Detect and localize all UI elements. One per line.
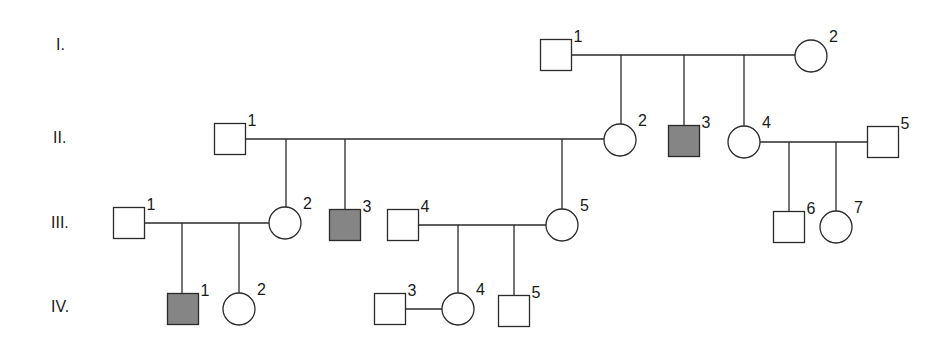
male-square-icon [114,208,145,239]
individual-number: 2 [257,281,266,298]
individual-iv-4: 4 [442,281,485,325]
individual-number: 2 [829,28,838,45]
individual-number: 4 [762,114,771,131]
individual-ii-3: 3 [669,114,711,157]
individual-iii-7: 7 [820,199,863,243]
female-circle-icon [604,124,636,156]
individual-number: 3 [408,282,417,299]
individuals: 1212345123456712345 [114,28,910,327]
male-square-icon [215,124,246,155]
female-circle-icon [546,209,578,241]
individual-iv-5: 5 [499,284,541,327]
relationship-lines [145,55,868,309]
male-square-icon [499,296,530,327]
individual-number: 5 [580,197,589,214]
female-circle-icon [223,293,255,325]
individual-number: 1 [248,112,257,129]
affected-male-square-icon [330,210,361,241]
generation-label-ii: II. [53,129,66,146]
generation-label-i: I. [56,36,65,53]
male-square-icon [388,210,419,241]
individual-number: 3 [363,198,372,215]
individual-number: 2 [303,195,312,212]
individual-i-2: 2 [795,28,838,72]
individual-ii-2: 2 [604,112,647,156]
individual-iii-2: 2 [269,195,312,239]
individual-i-1: 1 [541,28,583,71]
individual-iii-5: 5 [546,197,589,241]
individual-iii-3: 3 [330,198,372,241]
individual-iii-4: 4 [388,198,430,241]
individual-number: 7 [854,199,863,216]
male-square-icon [868,127,899,158]
female-circle-icon [442,293,474,325]
individual-number: 6 [807,200,816,217]
female-circle-icon [269,207,301,239]
individual-ii-4: 4 [728,114,771,158]
individual-number: 5 [532,284,541,301]
individual-number: 2 [638,112,647,129]
individual-iv-2: 2 [223,281,266,325]
individual-number: 3 [702,114,711,131]
generation-label-iv: IV. [51,298,69,315]
individual-ii-5: 5 [868,115,910,158]
individual-number: 4 [476,281,485,298]
male-square-icon [541,40,572,71]
generation-label-iii: III. [51,214,69,231]
affected-male-square-icon [669,126,700,157]
pedigree-chart: I.II.III.IV. 1212345123456712345 [0,0,945,345]
affected-male-square-icon [168,294,199,325]
male-square-icon [774,212,805,243]
male-square-icon [375,294,406,325]
individual-iv-1: 1 [168,282,210,325]
individual-iii-6: 6 [774,200,816,243]
female-circle-icon [728,126,760,158]
individual-number: 4 [421,198,430,215]
individual-iv-3: 3 [375,282,417,325]
individual-number: 5 [901,115,910,132]
individual-iii-1: 1 [114,196,156,239]
individual-number: 1 [201,282,210,299]
female-circle-icon [795,40,827,72]
individual-ii-1: 1 [215,112,257,155]
individual-number: 1 [574,28,583,45]
individual-number: 1 [147,196,156,213]
female-circle-icon [820,211,852,243]
generation-labels: I.II.III.IV. [51,36,69,315]
